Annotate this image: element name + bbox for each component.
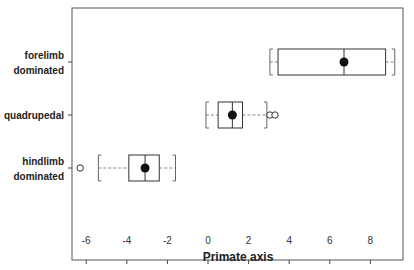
x-tick-label: 8: [368, 235, 374, 246]
x-tick-label: -6: [82, 235, 91, 246]
x-tick-label: 6: [327, 235, 333, 246]
category-label: dominated: [13, 65, 64, 76]
boxplot-chart: forelimbdominatedquadrupedalhindlimbdomi…: [0, 0, 414, 270]
category-label: dominated: [13, 171, 64, 182]
category-label: hindlimb: [22, 156, 64, 167]
boxes: [77, 49, 395, 181]
category-label: forelimb: [25, 50, 64, 61]
iqr-box: [278, 49, 386, 75]
chart-svg: forelimbdominatedquadrupedalhindlimbdomi…: [0, 0, 414, 270]
mean-dot: [141, 164, 150, 173]
x-axis-title: Primate axis: [203, 250, 274, 264]
mean-dot: [340, 58, 349, 67]
box-forelimb-dominated: [270, 49, 395, 75]
mean-dot: [228, 111, 237, 120]
box-quadrupedal: [206, 102, 278, 128]
x-tick-label: 4: [286, 235, 292, 246]
y-axis-labels: forelimbdominatedquadrupedalhindlimbdomi…: [4, 50, 72, 182]
x-tick-label: 2: [246, 235, 252, 246]
outlier-point: [272, 112, 278, 118]
outlier-point: [77, 165, 83, 171]
category-label: quadrupedal: [4, 110, 64, 121]
plot-frame: [72, 8, 403, 260]
x-tick-label: -4: [122, 235, 131, 246]
x-tick-label: 0: [205, 235, 211, 246]
x-tick-label: -2: [163, 235, 172, 246]
whisker-high-cap: [173, 155, 176, 181]
box-hindlimb-dominated: [77, 155, 176, 181]
